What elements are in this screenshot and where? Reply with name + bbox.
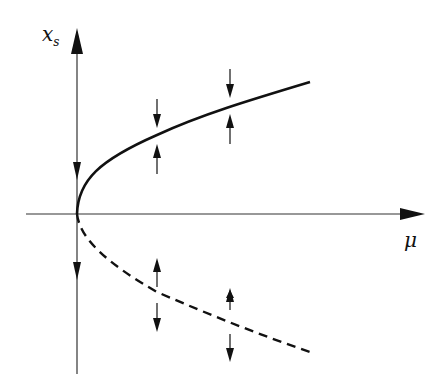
unstable-branch (77, 214, 310, 352)
stable-branch (77, 82, 310, 214)
arrow-down-icon (73, 262, 81, 280)
arrow-down-icon (73, 162, 81, 180)
y-axis-label: xs (42, 22, 59, 49)
x-axis-label: μ (404, 228, 417, 252)
bifurcation-diagram (0, 0, 447, 391)
xs-axis (71, 28, 83, 374)
mu-axis (26, 208, 425, 220)
